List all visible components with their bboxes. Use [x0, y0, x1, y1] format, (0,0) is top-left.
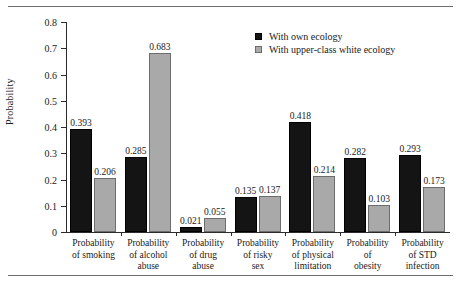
legend-item-series-1: With upper-class white ecology	[255, 43, 395, 56]
x-axis-category-line: limitation	[285, 261, 340, 273]
bar-group: 0.3930.206	[66, 22, 121, 232]
bar-series-0: 0.418	[289, 122, 311, 232]
bar-value-label: 0.214	[314, 165, 335, 175]
bar-series-1: 0.103	[368, 205, 390, 232]
x-tick-mark	[121, 232, 122, 236]
legend-item-series-0: With own ecology	[255, 30, 395, 43]
x-axis-category-line: of alcohol	[121, 250, 176, 262]
x-axis-category-line: Probability	[121, 238, 176, 250]
x-axis-category-line: sex	[231, 261, 286, 273]
x-axis-category-label: Probabilityof smoking	[66, 238, 121, 261]
x-axis-category-line: Probability	[395, 238, 450, 250]
bar-value-label: 0.293	[399, 144, 420, 154]
bar-value-label: 0.206	[94, 167, 115, 177]
x-axis-category-label: Probabilityof riskysex	[231, 238, 286, 273]
y-tick-label: 0.6	[45, 69, 58, 80]
bar-value-label: 0.135	[235, 186, 256, 196]
bar-value-label: 0.683	[149, 42, 170, 52]
x-axis-category-line: Probability	[176, 238, 231, 250]
bar-value-label: 0.103	[369, 194, 390, 204]
y-tick-label: 0.3	[45, 148, 58, 159]
chart-legend: With own ecology With upper-class white …	[255, 30, 395, 56]
bar-series-0: 0.135	[235, 197, 257, 232]
bar-group: 0.2850.683	[121, 22, 176, 232]
x-axis-category-label: Probabilityof drugabuse	[176, 238, 231, 273]
bar-series-1: 0.214	[313, 176, 335, 232]
y-tick-label: 0.8	[45, 17, 58, 28]
x-axis-category-line: Probability	[231, 238, 286, 250]
bar-series-0: 0.393	[70, 129, 92, 232]
bar-value-label: 0.173	[423, 176, 444, 186]
x-axis-category-line: Probability	[66, 238, 121, 250]
bar-group: 0.2930.173	[395, 22, 450, 232]
bar-value-label: 0.055	[204, 207, 225, 217]
bar-value-label: 0.137	[259, 185, 280, 195]
x-tick-mark	[395, 232, 396, 236]
x-tick-mark	[231, 232, 232, 236]
x-axis-category-line: infection	[395, 261, 450, 273]
x-tick-mark	[340, 232, 341, 236]
legend-swatch-icon	[255, 46, 262, 53]
y-tick-label: 0.4	[45, 122, 58, 133]
legend-swatch-icon	[255, 33, 262, 40]
bar-value-label: 0.282	[345, 147, 366, 157]
legend-label: With own ecology	[269, 31, 342, 42]
legend-label: With upper-class white ecology	[269, 44, 395, 55]
x-axis-line	[66, 232, 450, 233]
x-axis-category-label: Probabilityofobesity	[340, 238, 395, 273]
x-axis-category-line: of risky	[231, 250, 286, 262]
x-axis-category-line: Probability	[340, 238, 395, 250]
y-tick-label: 0.1	[45, 200, 58, 211]
x-tick-mark	[176, 232, 177, 236]
bar-series-1: 0.173	[423, 187, 445, 232]
x-axis-category-line: of drug	[176, 250, 231, 262]
bar-value-label: 0.285	[125, 146, 146, 156]
y-tick-label: 0.7	[45, 43, 58, 54]
bar-value-label: 0.021	[180, 216, 201, 226]
bar-series-0: 0.282	[344, 158, 366, 232]
bar-series-0: 0.293	[399, 155, 421, 232]
x-axis-category-line: of smoking	[66, 250, 121, 262]
y-tick-mark	[61, 232, 66, 233]
bar-value-label: 0.393	[70, 118, 91, 128]
x-axis-category-line: of physical	[285, 250, 340, 262]
x-axis-category-line: abuse	[176, 261, 231, 273]
y-tick-label: 0.2	[45, 174, 58, 185]
x-axis-category-line: obesity	[340, 261, 395, 273]
x-axis-category-label: Probabilityof STDinfection	[395, 238, 450, 273]
y-tick-label: 0	[52, 227, 57, 238]
x-tick-mark	[285, 232, 286, 236]
x-axis-category-line: abuse	[121, 261, 176, 273]
y-axis-title: Probability	[4, 78, 15, 125]
bar-value-label: 0.418	[290, 111, 311, 121]
bar-series-0: 0.021	[180, 227, 202, 233]
x-axis-category-label: Probabilityof physicallimitation	[285, 238, 340, 273]
chart-figure: Probability 00.10.20.30.40.50.60.70.80.3…	[0, 0, 461, 291]
bar-group: 0.0210.055	[176, 22, 231, 232]
top-rule	[8, 6, 453, 7]
bar-series-1: 0.206	[94, 178, 116, 232]
x-axis-category-line: of	[340, 250, 395, 262]
bottom-rule	[8, 275, 453, 276]
bar-series-1: 0.055	[204, 218, 226, 232]
x-axis-category-label: Probabilityof alcoholabuse	[121, 238, 176, 273]
bar-series-1: 0.137	[259, 196, 281, 232]
x-axis-category-line: of STD	[395, 250, 450, 262]
x-axis-category-line: Probability	[285, 238, 340, 250]
bar-series-0: 0.285	[125, 157, 147, 232]
y-tick-label: 0.5	[45, 95, 58, 106]
bar-series-1: 0.683	[149, 53, 171, 232]
